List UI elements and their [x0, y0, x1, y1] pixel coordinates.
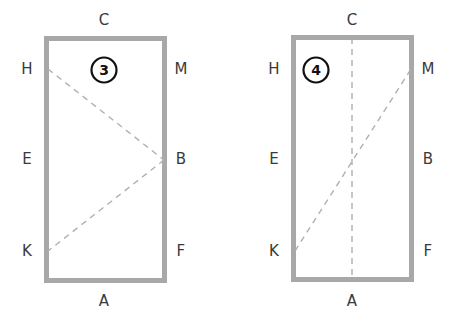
diagram-canvas: 3 C H M E B K F A 4 C H M E B K F A: [0, 0, 460, 330]
figure-4-label-k: K: [269, 244, 279, 259]
figure-4-label-a: A: [347, 294, 357, 309]
figure-4-label-e: E: [269, 152, 279, 167]
figure-4-label-f: F: [424, 244, 433, 259]
figure-4-label-b: B: [423, 152, 434, 167]
figure-4-label-h: H: [268, 62, 279, 77]
figure-number-badge-ring: [304, 58, 329, 83]
figure-4-graphics: [0, 0, 460, 330]
figure-4: 4 C H M E B K F A: [0, 0, 460, 330]
figure-4-label-m: M: [421, 62, 434, 77]
figure-4-label-c: C: [347, 13, 358, 28]
